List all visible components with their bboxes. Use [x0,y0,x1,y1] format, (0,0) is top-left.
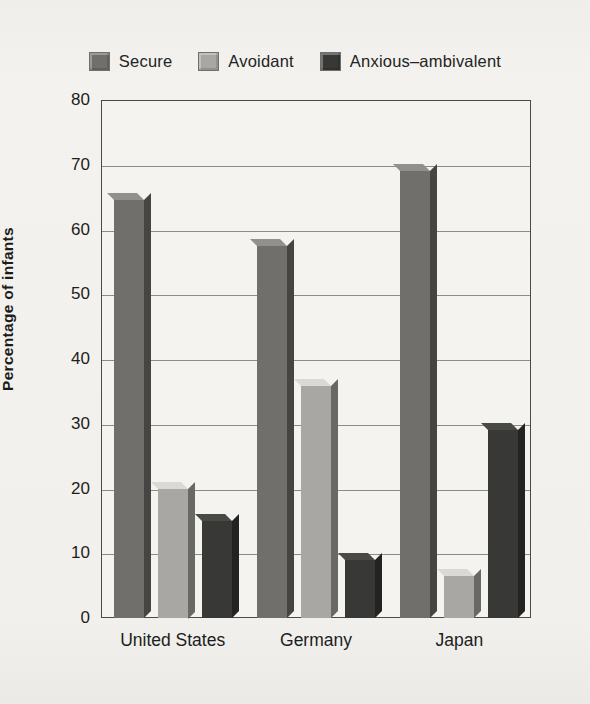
y-tick-label: 20 [34,479,90,499]
legend-item-avoidant[interactable]: Avoidant [198,52,294,71]
bar-top [294,379,331,386]
bar[interactable] [257,239,294,618]
scan-surface: Secure Avoidant Anxious–ambivalent 80706… [0,0,590,704]
legend-item-secure[interactable]: Secure [89,52,172,71]
y-tick-label: 60 [34,220,90,240]
legend-item-anxious-ambivalent[interactable]: Anxious–ambivalent [320,52,501,71]
bar-face [114,200,144,618]
bar-top [107,193,144,200]
bar[interactable] [114,193,151,618]
y-tick-label: 50 [34,284,90,304]
bar-side [518,423,525,618]
y-tick-label: 30 [34,414,90,434]
legend-swatch-avoidant [198,52,219,71]
y-axis-label: Percentage of infants [0,129,17,489]
bar[interactable] [301,379,338,618]
chart-legend: Secure Avoidant Anxious–ambivalent [0,52,590,71]
x-tick-label: Japan [435,630,483,651]
legend-label-anxious-ambivalent: Anxious–ambivalent [350,52,501,71]
bar-side [232,514,239,618]
legend-label-secure: Secure [119,52,172,71]
y-tick-label: 70 [34,155,90,175]
legend-label-avoidant: Avoidant [228,52,294,71]
bar-side [331,379,338,618]
bar[interactable] [488,423,525,618]
chart-page: Secure Avoidant Anxious–ambivalent 80706… [0,0,590,704]
bar-face [488,430,518,618]
bar-top [195,514,232,521]
y-tick-label: 40 [34,349,90,369]
bar[interactable] [158,482,195,619]
bar-side [474,569,481,618]
legend-swatch-anxious-ambivalent [320,52,341,71]
bar-side [144,193,151,618]
y-tick-label: 10 [34,543,90,563]
bar-top [338,553,375,560]
bar[interactable] [444,569,481,618]
bar[interactable] [345,553,382,618]
y-tick-label: 80 [34,90,90,110]
bar-top [481,423,518,430]
bar-side [287,239,294,618]
bar-face [257,246,287,618]
bar-face [158,489,188,619]
bar[interactable] [400,164,437,618]
x-tick-label: Germany [280,630,352,651]
bar-top [250,239,287,246]
bar-face [345,560,375,618]
bar[interactable] [202,514,239,618]
bars-layer [101,100,531,618]
bar-side [430,164,437,618]
bar-side [188,482,195,619]
x-tick-label: United States [120,630,225,651]
bar-top [393,164,430,171]
legend-swatch-secure [89,52,110,71]
y-tick-label: 0 [34,608,90,628]
bar-face [301,386,331,618]
bar-face [202,521,232,618]
bar-side [375,553,382,618]
bar-face [400,171,430,618]
bar-top [437,569,474,576]
bar-top [151,482,188,489]
bar-face [444,576,474,618]
